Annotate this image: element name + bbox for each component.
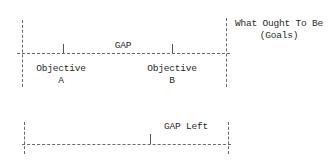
gap-left-label: GAP Left xyxy=(161,121,211,132)
objective-a-title: Objective xyxy=(30,63,92,74)
bottom-start-boundary-line xyxy=(24,122,25,154)
bottom-goal-boundary-line xyxy=(228,122,229,154)
top-axis-line xyxy=(17,53,230,54)
goal-label: What Ought To Be (Goals) xyxy=(232,18,326,41)
goal-label-line2: (Goals) xyxy=(232,30,326,41)
objective-a-letter: A xyxy=(30,75,92,86)
gap-label: GAP xyxy=(112,40,134,51)
objective-a-label: Objective A xyxy=(30,63,92,86)
gap-analysis-diagram: GAP Objective A Objective B What Ought T… xyxy=(0,0,334,168)
objective-b-title: Objective xyxy=(141,63,203,74)
bottom-axis-line xyxy=(22,144,231,145)
objective-b-tick xyxy=(172,44,173,53)
current-position-tick xyxy=(150,134,151,144)
objective-a-tick xyxy=(63,44,64,53)
objective-b-letter: B xyxy=(141,75,203,86)
top-goal-boundary-line xyxy=(226,18,227,87)
goal-label-line1: What Ought To Be xyxy=(232,18,326,29)
objective-b-label: Objective B xyxy=(141,63,203,86)
